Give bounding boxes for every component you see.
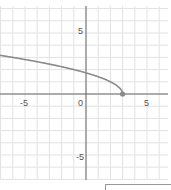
x-tick-label-neg5: -5 [20, 98, 28, 108]
endpoint-dot[interactable] [120, 91, 125, 96]
y-tick-label-neg5: -5 [76, 152, 84, 162]
y-tick-label-5: 5 [78, 26, 83, 36]
graph-plot: -5 0 5 5 -5 [0, 0, 171, 190]
answer-box[interactable] [105, 184, 171, 190]
x-tick-label-5: 5 [144, 98, 149, 108]
x-tick-label-0: 0 [78, 98, 83, 108]
